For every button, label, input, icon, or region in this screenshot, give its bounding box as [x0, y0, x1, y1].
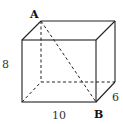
visible-edges: [22, 21, 115, 102]
hidden-bottom-left-connector: [22, 82, 41, 102]
top-left-connector: [22, 21, 41, 40]
vertex-label-a: A: [29, 8, 39, 21]
prism-diagram: A B 8 10 6: [0, 0, 123, 124]
depth-label: 6: [112, 91, 119, 104]
diagonal-AB: [41, 21, 96, 102]
length-label: 10: [52, 109, 66, 122]
height-label: 8: [2, 58, 9, 71]
hidden-edges: [22, 21, 115, 102]
top-right-connector: [96, 21, 115, 40]
front-face: [22, 40, 96, 102]
vertex-label-b: B: [94, 108, 103, 121]
